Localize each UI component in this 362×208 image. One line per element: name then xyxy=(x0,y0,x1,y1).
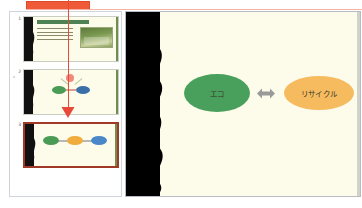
slide-1-wave-edge xyxy=(31,17,36,61)
slide-3-preview[interactable] xyxy=(23,122,119,168)
slide-2-wave-edge xyxy=(31,70,36,114)
slide-2-node-green xyxy=(52,86,66,94)
slide-3-wave-edge xyxy=(32,124,37,166)
main-slide-right-accent xyxy=(357,12,360,196)
slide-1-right-accent xyxy=(116,17,118,61)
application-window: 1 2 * xyxy=(0,0,362,208)
slide-3-node-blue xyxy=(91,136,107,145)
slide-2-node-blue xyxy=(76,86,90,94)
main-slide-canvas[interactable]: エコ リサイクル xyxy=(125,11,361,197)
slide-diagram: エコ リサイクル xyxy=(174,72,360,120)
main-slide-wave-edge xyxy=(148,12,174,196)
red-down-arrow-icon xyxy=(61,104,75,118)
slide-2-animation-icon: * xyxy=(13,76,15,80)
red-annotation-line xyxy=(68,0,70,110)
shape-oval-eco[interactable]: エコ xyxy=(184,74,250,112)
slide-thumbnail-3[interactable]: 3 xyxy=(10,122,123,170)
slide-number-1: 1 xyxy=(12,16,21,22)
slide-3-node-green xyxy=(43,136,59,145)
double-arrow-icon-1 xyxy=(257,88,275,99)
slide-3-right-accent xyxy=(115,124,117,166)
slide-thumbnail-1[interactable]: 1 xyxy=(10,16,123,64)
slide-2-link-right xyxy=(75,78,83,84)
slide-1-title-bar xyxy=(37,20,89,24)
slide-3-node-orange xyxy=(67,136,83,145)
slide-1-canvas xyxy=(24,17,118,61)
slide-number-3: 3 xyxy=(12,122,21,128)
slide-1-photo xyxy=(80,27,113,48)
shape-oval-recycle[interactable]: リサイクル xyxy=(284,76,354,110)
slide-2-right-accent xyxy=(116,70,118,114)
slide-3-canvas xyxy=(25,124,117,166)
annotation-guide-line xyxy=(26,9,362,10)
slide-1-preview[interactable] xyxy=(23,16,119,62)
